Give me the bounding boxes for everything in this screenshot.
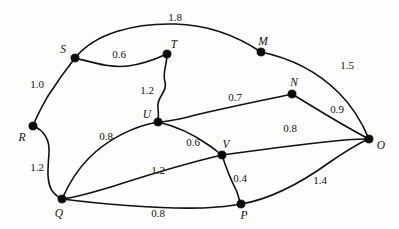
edge-weight-r-q: 1.2 (30, 162, 44, 173)
node-label-o: O (377, 140, 385, 152)
edge-n-u (158, 94, 292, 122)
node-s (71, 54, 79, 62)
node-label-n: N (290, 77, 298, 89)
node-n (288, 90, 296, 98)
node-u (154, 118, 162, 126)
edge-v-o (222, 139, 369, 155)
edge-p-o (241, 139, 369, 204)
edge-weight-v-o: 0.8 (283, 123, 297, 134)
edge-weight-v-p: 0.4 (233, 173, 247, 184)
edge-weight-t-u: 1.2 (140, 85, 154, 96)
node-t (163, 50, 171, 58)
node-label-p: P (240, 210, 247, 222)
node-m (257, 48, 265, 56)
edge-t-u (158, 54, 167, 122)
node-label-r: R (18, 132, 25, 144)
graph-canvas (0, 0, 399, 229)
edge-weight-n-o: 0.9 (330, 104, 344, 115)
edge-s-r (33, 58, 75, 126)
node-v (218, 151, 226, 159)
edge-weight-p-o: 1.4 (313, 175, 327, 186)
node-label-v: V (222, 139, 229, 151)
node-label-m: M (258, 36, 268, 48)
edge-weight-v-q: 1.2 (151, 165, 165, 176)
node-p (237, 200, 245, 208)
edge-weight-q-p: 0.8 (151, 208, 165, 219)
edge-weight-u-v: 0.6 (186, 137, 200, 148)
edge-weight-n-u: 0.7 (228, 92, 242, 103)
node-label-t: T (171, 39, 177, 51)
edge-weight-s-t: 0.6 (112, 49, 126, 60)
node-q (58, 195, 66, 203)
node-label-q: Q (55, 208, 63, 220)
edge-weight-s-r: 1.0 (30, 79, 44, 90)
graph-figure: 1.80.61.01.21.50.70.91.20.80.61.20.80.40… (0, 0, 399, 229)
edge-weight-s-m: 1.8 (168, 12, 182, 23)
node-o (365, 135, 373, 143)
node-r (29, 122, 37, 130)
node-label-s: S (60, 44, 66, 56)
node-label-u: U (143, 109, 151, 121)
edge-weight-u-q: 0.8 (99, 131, 113, 142)
edge-weight-m-o: 1.5 (340, 60, 354, 71)
